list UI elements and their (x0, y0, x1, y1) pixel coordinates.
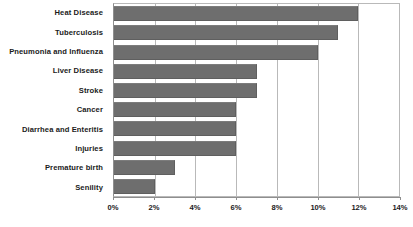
bar[interactable] (114, 102, 236, 117)
tick-mark (113, 197, 114, 200)
bar[interactable] (114, 83, 257, 98)
category-label: Liver Disease (0, 61, 108, 80)
x-tick-label: 2% (149, 203, 160, 212)
bar-series (114, 4, 399, 196)
tick-mark (236, 197, 237, 200)
bar[interactable] (114, 6, 358, 21)
bar-chart: Heat DiseaseTuberculosisPneumonia and In… (0, 0, 413, 227)
tick-mark (154, 197, 155, 200)
bar[interactable] (114, 25, 338, 40)
bar-slot (114, 100, 399, 119)
category-label: Diarrhea and Enteritis (0, 119, 108, 138)
category-axis-labels: Heat DiseaseTuberculosisPneumonia and In… (0, 3, 108, 197)
gridline (399, 4, 400, 196)
bar-slot (114, 158, 399, 177)
category-label: Pneumonia and Influenza (0, 42, 108, 61)
bar[interactable] (114, 141, 236, 156)
x-tick-label: 6% (231, 203, 242, 212)
bar-slot (114, 4, 399, 23)
category-label: Tuberculosis (0, 22, 108, 41)
bar-slot (114, 81, 399, 100)
tick-mark (359, 197, 360, 200)
x-tick-label: 12% (351, 203, 366, 212)
tick-mark (195, 197, 196, 200)
category-label: Cancer (0, 100, 108, 119)
tick-mark (277, 197, 278, 200)
bar-slot (114, 23, 399, 42)
category-label: Heat Disease (0, 3, 108, 22)
category-label: Stroke (0, 81, 108, 100)
bar-slot (114, 119, 399, 138)
category-label: Premature birth (0, 158, 108, 177)
category-label: Senility (0, 178, 108, 197)
category-label: Injuries (0, 139, 108, 158)
plot-area (113, 3, 400, 197)
x-tick-label: 4% (190, 203, 201, 212)
x-axis-tick-labels: 0%2%4%6%8%10%12%14% (113, 203, 400, 217)
bar[interactable] (114, 121, 236, 136)
bar[interactable] (114, 160, 175, 175)
bar[interactable] (114, 179, 155, 194)
x-tick-label: 0% (108, 203, 119, 212)
bar-slot (114, 138, 399, 157)
bar-slot (114, 62, 399, 81)
x-tick-label: 14% (392, 203, 407, 212)
bar-slot (114, 177, 399, 196)
x-tick-label: 8% (272, 203, 283, 212)
x-axis-tick-marks (113, 197, 400, 201)
tick-mark (318, 197, 319, 200)
x-tick-label: 10% (310, 203, 325, 212)
tick-mark (400, 197, 401, 200)
bar-slot (114, 42, 399, 61)
bar[interactable] (114, 64, 257, 79)
bar[interactable] (114, 45, 318, 60)
